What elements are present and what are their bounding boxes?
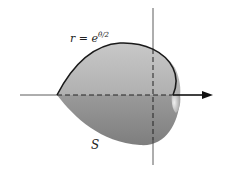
- arrowhead-icon: [202, 91, 213, 99]
- surface-label: S: [91, 138, 99, 152]
- surface-upper-half: [57, 43, 180, 95]
- diagram-canvas: [0, 0, 231, 176]
- equation-lhs: r = e: [70, 32, 98, 45]
- curve-equation-label: r = eθ/2: [70, 31, 109, 45]
- equation-exponent: θ/2: [98, 31, 109, 39]
- surface-lower-half: [57, 95, 180, 145]
